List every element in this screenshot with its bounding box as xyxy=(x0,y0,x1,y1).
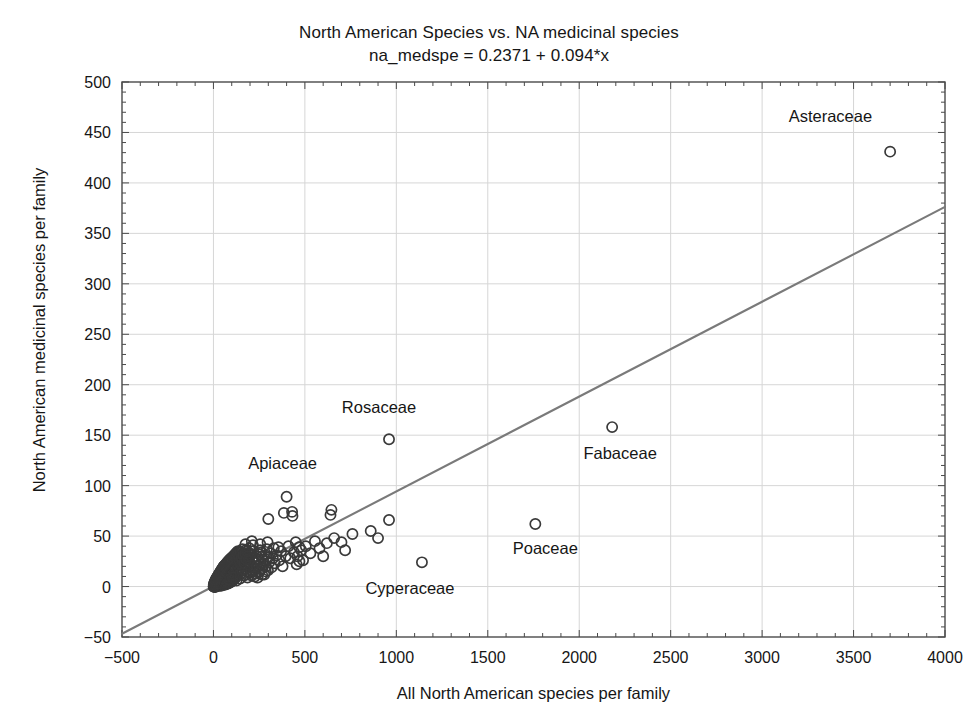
x-tick-label: 3000 xyxy=(744,649,780,666)
data-point xyxy=(417,557,427,567)
x-tick-label: 500 xyxy=(292,649,319,666)
data-point xyxy=(282,492,292,502)
x-tick-label: −500 xyxy=(104,649,140,666)
x-tick-label: 2500 xyxy=(653,649,689,666)
x-tick-label: 3500 xyxy=(836,649,872,666)
y-tick-label: 250 xyxy=(84,326,111,343)
y-tick-labels: −50050100150200250300350400450500 xyxy=(84,74,111,646)
data-points xyxy=(209,147,896,592)
y-tick-label: 500 xyxy=(84,74,111,91)
data-point xyxy=(607,422,617,432)
x-tick-label: 1000 xyxy=(379,649,415,666)
y-tick-label: 400 xyxy=(84,175,111,192)
y-tick-label: 0 xyxy=(102,579,111,596)
data-point xyxy=(263,514,273,524)
point-annotation-label: Cyperaceae xyxy=(365,579,454,597)
x-tick-label: 0 xyxy=(209,649,218,666)
point-annotation-label: Fabaceae xyxy=(583,444,656,462)
point-annotation-label: Rosaceae xyxy=(342,398,416,416)
y-tick-label: 350 xyxy=(84,225,111,242)
y-tick-label: 450 xyxy=(84,124,111,141)
data-point xyxy=(530,519,540,529)
y-tick-label: 300 xyxy=(84,276,111,293)
y-tick-label: 100 xyxy=(84,478,111,495)
point-annotations: AsteraceaeRosaceaeFabaceaeApiaceaePoacea… xyxy=(248,107,872,598)
scatter-chart: North American Species vs. NA medicinal … xyxy=(0,0,978,727)
data-point xyxy=(322,538,332,548)
data-point xyxy=(373,533,383,543)
point-annotation-label: Apiaceae xyxy=(248,454,317,472)
y-tick-label: 150 xyxy=(84,427,111,444)
y-tick-label: 50 xyxy=(93,528,111,545)
data-point xyxy=(384,515,394,525)
data-point xyxy=(347,529,357,539)
x-tick-label: 1500 xyxy=(470,649,506,666)
x-tick-label: 2000 xyxy=(561,649,597,666)
y-tick-label: −50 xyxy=(84,629,111,646)
y-tick-label: 200 xyxy=(84,377,111,394)
x-tick-labels: −50005001000150020002500300035004000 xyxy=(104,649,963,666)
x-tick-label: 4000 xyxy=(927,649,963,666)
point-annotation-label: Asteraceae xyxy=(789,107,872,125)
plot-area: −50050100150200250300350400450500 −50005… xyxy=(0,0,978,727)
data-point xyxy=(885,147,895,157)
point-annotation-label: Poaceae xyxy=(513,539,578,557)
